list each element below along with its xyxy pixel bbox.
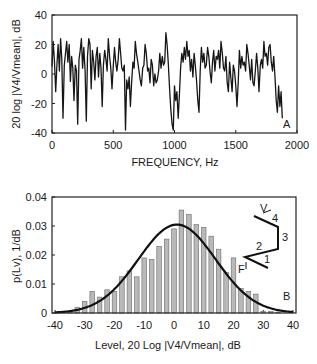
chart-b-bar: [127, 271, 132, 313]
chart-b-xtick-label: 40: [287, 319, 299, 331]
chart-b-xtick-label: 30: [257, 319, 269, 331]
chart-a-xtick-label: 0: [49, 139, 55, 151]
chart-b-xtick-label: 0: [171, 319, 177, 331]
figure: 20 log |V4/Vmean|, dB -40-2002040 050010…: [0, 0, 317, 364]
chart-a-ylabel: 20 log |V4/Vmean|, dB: [10, 19, 22, 129]
chart-a: 20 log |V4/Vmean|, dB -40-2002040 050010…: [10, 9, 309, 168]
chart-b-ytick-label: 0.03: [26, 220, 47, 232]
chart-a-xtick-label: 2000: [285, 139, 309, 151]
chart-b-ylabel: p(Lv), 1/dB: [10, 229, 22, 283]
chart-b: p(Lv), 1/dB 00.010.020.030.04 -40-30-20-…: [10, 191, 299, 351]
inset-label-f: F: [238, 263, 245, 275]
chart-a-ytick-label: 40: [35, 9, 47, 21]
chart-a-series-line: [52, 33, 282, 130]
chart-b-bar: [172, 229, 177, 313]
chart-b-xtick-label: -30: [77, 319, 93, 331]
chart-a-ytick-label: -20: [31, 98, 47, 110]
chart-b-xtick-label: 20: [227, 319, 239, 331]
inset-label-4: 4: [272, 212, 278, 224]
chart-b-y-ticks: 00.010.020.030.04: [26, 191, 55, 319]
inset-label-v: V: [260, 202, 268, 214]
chart-a-xtick-label: 1000: [162, 139, 186, 151]
chart-a-ytick-label: -40: [31, 127, 47, 139]
chart-b-bar: [164, 239, 169, 313]
chart-a-xtick-label: 1500: [224, 139, 248, 151]
chart-a-ytick-label: 20: [35, 39, 47, 51]
chart-b-xtick-label: -20: [107, 319, 123, 331]
chart-b-bar: [149, 259, 154, 313]
chart-a-xtick-label: 500: [104, 139, 122, 151]
inset-label-2: 2: [256, 240, 262, 252]
chart-b-xtick-label: 10: [198, 319, 210, 331]
inset-label-1: 1: [264, 253, 270, 265]
inset-path-diagram: F 1 2 3 4 V: [238, 202, 288, 275]
inset-label-3: 3: [282, 231, 288, 243]
chart-a-panel-label: A: [283, 118, 291, 130]
chart-b-xlabel: Level, 20 Log |V4/Vmean|, dB: [95, 339, 241, 351]
chart-b-bar: [112, 291, 117, 313]
chart-b-bar: [90, 291, 95, 313]
chart-b-xtick-label: -40: [47, 319, 63, 331]
chart-b-bar: [135, 277, 140, 313]
chart-b-bar: [216, 249, 221, 313]
chart-b-ytick-label: 0.02: [26, 249, 47, 261]
chart-a-xlabel: FREQUENCY, Hz: [131, 156, 218, 168]
chart-b-ytick-label: 0.01: [26, 278, 47, 290]
chart-b-bar: [209, 236, 214, 313]
chart-b-xtick-label: -10: [136, 319, 152, 331]
chart-b-panel-label: B: [283, 290, 290, 302]
chart-b-ytick-label: 0.04: [26, 191, 47, 203]
chart-b-bar: [157, 246, 162, 313]
chart-b-bar: [224, 272, 229, 313]
chart-a-ytick-label: 0: [41, 68, 47, 80]
chart-b-bar: [142, 258, 147, 313]
chart-b-ytick-label: 0: [41, 307, 47, 319]
